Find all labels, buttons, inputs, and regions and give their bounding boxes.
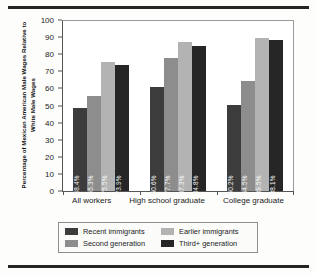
- bar-group: 60.6%77.7%87.3%84.8%: [150, 20, 206, 191]
- y-tick-label: 20: [14, 152, 54, 161]
- figure: Percentage of Mexican American Male Wage…: [0, 0, 317, 274]
- bar[interactable]: 88.1%: [269, 40, 283, 191]
- legend-label: Third+ generation: [179, 239, 237, 248]
- x-axis-category-label: College graduate: [223, 196, 284, 205]
- bar-value-label: 77.7%: [164, 175, 171, 194]
- bar-value-label: 50.2%: [227, 175, 234, 194]
- bar-groups: 48.4%55.3%75.5%73.9%60.6%77.7%87.3%84.8%…: [63, 20, 293, 191]
- y-tick-label: 70: [14, 67, 54, 76]
- legend-item[interactable]: Second generation: [65, 239, 155, 248]
- bar[interactable]: 87.3%: [178, 42, 192, 191]
- y-tick-label: 80: [14, 50, 54, 59]
- legend-item[interactable]: Third+ generation: [161, 239, 251, 248]
- bar[interactable]: 89.5%: [255, 38, 269, 191]
- y-tick-label: 0: [14, 187, 54, 196]
- legend-label: Earlier immigrants: [179, 227, 239, 236]
- bar-value-label: 55.3%: [87, 175, 94, 194]
- bar-value-label: 87.3%: [178, 175, 185, 194]
- legend-label: Second generation: [83, 239, 145, 248]
- legend-swatch: [65, 228, 78, 235]
- bar-group: 50.2%64.5%89.5%88.1%: [227, 20, 283, 191]
- legend-swatch: [161, 228, 174, 235]
- bar[interactable]: 73.9%: [115, 65, 129, 191]
- x-axis-category-label: High school graduate: [129, 196, 205, 205]
- bottom-rule: [8, 265, 309, 268]
- y-tick-label: 10: [14, 169, 54, 178]
- bar[interactable]: 48.4%: [73, 108, 87, 191]
- bar-value-label: 64.5%: [241, 175, 248, 194]
- bar-value-label: 84.8%: [192, 175, 199, 194]
- legend-item[interactable]: Recent immigrants: [65, 227, 155, 236]
- bar-value-label: 73.9%: [115, 175, 122, 194]
- legend-swatch: [65, 240, 78, 247]
- x-tick-mark: [140, 191, 141, 195]
- y-tick-label: 50: [14, 101, 54, 110]
- bar[interactable]: 50.2%: [227, 105, 241, 191]
- bar-value-label: 75.5%: [101, 175, 108, 194]
- y-tick-label: 100: [14, 16, 54, 25]
- legend-label: Recent immigrants: [83, 227, 145, 236]
- bar[interactable]: 77.7%: [164, 58, 178, 191]
- top-rule: [8, 6, 309, 9]
- x-tick-mark: [217, 191, 218, 195]
- x-tick-mark: [63, 191, 64, 195]
- legend: Recent immigrantsEarlier immigrantsSecon…: [58, 222, 258, 253]
- bar[interactable]: 75.5%: [101, 62, 115, 191]
- y-axis-ticks: 0102030405060708090100: [0, 20, 62, 192]
- y-tick-label: 60: [14, 84, 54, 93]
- bar-value-label: 60.6%: [150, 175, 157, 194]
- bar[interactable]: 84.8%: [192, 46, 206, 191]
- bar[interactable]: 55.3%: [87, 96, 101, 191]
- y-tick-label: 40: [14, 118, 54, 127]
- bar-value-label: 89.5%: [255, 175, 262, 194]
- bar[interactable]: 60.6%: [150, 87, 164, 191]
- legend-item[interactable]: Earlier immigrants: [161, 227, 251, 236]
- bar-group: 48.4%55.3%75.5%73.9%: [73, 20, 129, 191]
- x-axis-category-labels: All workersHigh school graduateCollege g…: [63, 196, 293, 205]
- legend-swatch: [161, 240, 174, 247]
- bar-value-label: 48.4%: [73, 175, 80, 194]
- bar[interactable]: 64.5%: [241, 81, 255, 191]
- x-axis-category-label: All workers: [72, 196, 111, 205]
- y-tick-label: 30: [14, 135, 54, 144]
- bar-value-label: 88.1%: [269, 175, 276, 194]
- x-tick-mark: [293, 191, 294, 195]
- y-tick-label: 90: [14, 33, 54, 42]
